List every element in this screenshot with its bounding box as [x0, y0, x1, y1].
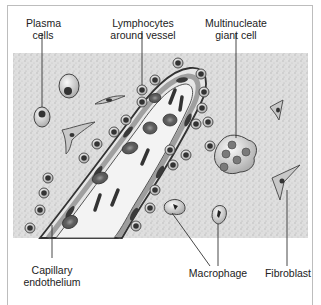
label-capillary-endothelium: Capillary endothelium [20, 264, 84, 288]
giant-cell [215, 135, 257, 173]
label-macrophage: Macrophage [186, 267, 250, 279]
label-lymphocytes: Lymphocytes around vessel [108, 17, 178, 41]
label-plasma-cells: Plasma cells [26, 17, 60, 41]
label-giant-cell: Multinucleate giant cell [200, 17, 272, 41]
label-fibroblast: Fibroblast [264, 267, 312, 279]
